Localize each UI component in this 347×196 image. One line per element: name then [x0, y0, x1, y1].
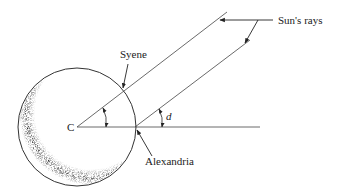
sun-rays-label: Sun's rays	[278, 14, 322, 26]
sun-rays-arrow-diagonal	[245, 20, 258, 43]
angle-d-label: d	[166, 110, 172, 122]
alexandria-pointer-arrow	[137, 130, 152, 156]
center-label: C	[67, 121, 74, 133]
alexandria-label: Alexandria	[145, 155, 194, 167]
syene-label: Syene	[120, 48, 147, 60]
lower-sun-ray	[135, 40, 250, 127]
eratosthenes-diagram: C Syene Alexandria Sun's rays d	[0, 0, 347, 196]
upper-sun-ray	[77, 12, 227, 127]
syene-pointer-arrow	[123, 64, 128, 88]
alexandria-angle-arc	[159, 109, 162, 127]
